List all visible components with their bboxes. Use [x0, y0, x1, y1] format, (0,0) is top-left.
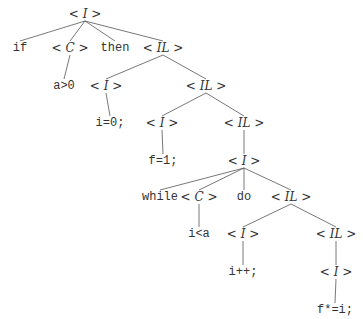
parse-tree-diagram: < I >if< C >then< IL >a>0< I >< IL >i=0;… — [0, 0, 363, 319]
nonterminal-node: < C > — [52, 42, 89, 54]
nonterminal-symbol: IL — [238, 116, 251, 130]
nonterminal-node: < IL > — [186, 80, 226, 92]
nonterminal-symbol: IL — [330, 227, 343, 241]
tree-edge — [163, 55, 206, 79]
terminal-node: i=0; — [96, 117, 125, 129]
terminal-node: i++; — [229, 266, 258, 278]
terminal-node: f*=i; — [317, 304, 353, 316]
terminal-node: do — [237, 191, 251, 203]
tree-edge — [64, 55, 70, 79]
tree-edge — [244, 168, 291, 190]
terminal-node: f=1; — [149, 155, 178, 167]
nonterminal-node: < IL > — [224, 117, 264, 129]
nonterminal-node: < IL > — [143, 42, 183, 54]
terminal-node: a>0 — [53, 80, 75, 92]
tree-edge — [291, 204, 336, 227]
nonterminal-node: < I > — [90, 80, 123, 92]
tree-edge — [162, 130, 163, 154]
nonterminal-symbol: C — [65, 41, 74, 55]
terminal-node: then — [101, 42, 130, 54]
nonterminal-node: < I > — [227, 228, 260, 240]
tree-edge — [85, 21, 163, 41]
tree-edge — [70, 21, 85, 41]
terminal-node: if — [13, 42, 27, 54]
tree-edge — [106, 93, 110, 116]
nonterminal-node: < I > — [320, 266, 353, 278]
nonterminal-node: < I > — [228, 155, 261, 167]
nonterminal-symbol: IL — [285, 190, 298, 204]
tree-edge — [206, 93, 244, 116]
tree-edge — [199, 168, 244, 190]
tree-edge — [85, 21, 115, 41]
terminal-node: while — [142, 191, 178, 203]
tree-edge — [335, 279, 336, 303]
nonterminal-node: < C > — [181, 191, 218, 203]
nonterminal-symbol: IL — [157, 41, 170, 55]
nonterminal-node: < IL > — [271, 191, 311, 203]
tree-edge — [162, 93, 206, 116]
nonterminal-node: < I > — [69, 8, 102, 20]
tree-edge — [160, 168, 244, 190]
nonterminal-node: < IL > — [316, 228, 356, 240]
tree-edge — [20, 21, 85, 41]
terminal-node: i<a — [188, 228, 210, 240]
nonterminal-node: < I > — [146, 117, 179, 129]
tree-edge — [243, 204, 291, 227]
nonterminal-symbol: IL — [200, 79, 213, 93]
nonterminal-symbol: C — [194, 190, 203, 204]
tree-edge — [106, 55, 163, 79]
